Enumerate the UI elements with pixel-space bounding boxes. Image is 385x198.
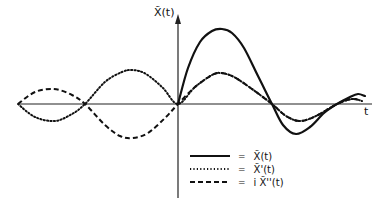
series-x-prime-dotted [18,70,362,121]
legend-equals: = [238,177,246,187]
y-axis-label: X̃(t) [154,6,174,19]
y-axis-arrow-icon [175,14,181,24]
legend-equals: = [238,164,246,174]
legend-equals: = [238,151,246,161]
legend-item-dashed: = i X̃''(t) [190,176,284,188]
legend-item-solid: = X̃(t) [190,150,272,162]
legend-label: X̃'(t) [254,164,275,175]
legend-dashed-line-icon [190,177,230,187]
series-x-solid [178,29,365,134]
legend-dotted-line-icon [190,164,230,174]
legend-solid-line-icon [190,151,230,161]
legend-label: X̃(t) [254,151,273,162]
series-i-x-double-prime-dashed [18,73,362,138]
legend-item-dotted: = X̃'(t) [190,163,275,175]
legend-label: i X̃''(t) [254,177,284,188]
x-axis-label: t [364,105,368,118]
